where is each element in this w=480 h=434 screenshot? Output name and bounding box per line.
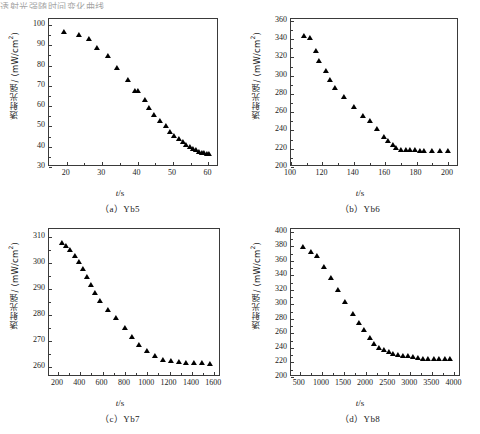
x-tick	[454, 372, 455, 375]
y-tick-label: 240	[257, 343, 287, 351]
y-tick-minor	[49, 276, 51, 277]
y-tick-label: 70	[15, 81, 45, 89]
data-point	[122, 325, 128, 330]
x-tick	[291, 162, 292, 165]
x-tick	[80, 372, 81, 375]
data-point	[328, 275, 334, 280]
y-tick-minor	[291, 30, 293, 31]
data-point	[125, 77, 131, 82]
x-tick-label: 4000	[436, 379, 470, 387]
y-tick-label: 30	[15, 162, 45, 170]
data-point	[97, 298, 103, 303]
x-axis-title-c: t/s	[0, 398, 240, 408]
y-tick	[49, 86, 52, 87]
chart-panel-b: 透射光强/ (mW/cm2) t/s （b）Yb6 20022024026028…	[240, 8, 480, 221]
data-point	[151, 112, 157, 117]
x-tick-minor	[401, 163, 402, 165]
y-tick-label: 50	[15, 121, 45, 129]
y-tick-label: 220	[257, 357, 287, 365]
x-tick-minor	[333, 373, 334, 375]
data-point	[114, 65, 120, 70]
x-tick	[192, 372, 193, 375]
chart-caption-d: （d）Yb8	[240, 412, 480, 425]
x-tick-label: 160	[367, 169, 401, 177]
y-tick-label: 260	[15, 362, 45, 370]
x-tick	[388, 372, 389, 375]
data-point	[157, 118, 163, 123]
plot-area-b	[290, 18, 458, 166]
y-tick-label: 340	[257, 270, 287, 278]
chart-caption-a: （a）Yb5	[0, 202, 240, 215]
y-tick-minor	[291, 85, 293, 86]
x-tick	[170, 372, 171, 375]
x-tick	[138, 162, 139, 165]
data-point	[335, 287, 341, 292]
y-tick-minor	[49, 354, 51, 355]
data-point	[92, 290, 98, 295]
figure-sheet: 透射光强随时间变化曲线 透射光强/ (mW/cm2) t/s （a）Yb5 30…	[0, 0, 480, 434]
y-tick-label: 90	[15, 40, 45, 48]
y-tick	[291, 362, 294, 363]
x-tick-minor	[377, 373, 378, 375]
data-point	[447, 355, 453, 360]
data-point	[160, 357, 166, 362]
x-tick-label: 60	[190, 169, 224, 177]
y-tick	[49, 237, 52, 238]
x-tick-minor	[443, 373, 444, 375]
x-tick-label: 50	[155, 169, 189, 177]
data-point	[105, 307, 111, 312]
y-tick	[49, 341, 52, 342]
plot-area-d	[290, 228, 460, 376]
data-point	[342, 299, 348, 304]
x-tick-minor	[338, 163, 339, 165]
y-tick	[291, 94, 294, 95]
y-tick	[291, 149, 294, 150]
data-point	[366, 335, 372, 340]
y-tick-minor	[291, 355, 293, 356]
data-point	[429, 148, 435, 153]
data-point	[183, 360, 189, 365]
data-point	[332, 85, 338, 90]
y-tick-minor	[291, 254, 293, 255]
data-points-b	[291, 19, 457, 165]
y-tick	[291, 304, 294, 305]
y-tick-minor	[291, 158, 293, 159]
y-tick-label: 380	[257, 241, 287, 249]
x-tick-minor	[307, 163, 308, 165]
y-tick-label: 280	[257, 89, 287, 97]
data-point	[86, 36, 92, 41]
y-tick-minor	[49, 328, 51, 329]
y-tick-minor	[291, 140, 293, 141]
data-point	[321, 264, 327, 269]
x-tick-minor	[155, 163, 156, 165]
y-tick-label: 320	[257, 52, 287, 60]
x-tick-minor	[370, 163, 371, 165]
x-tick	[300, 372, 301, 375]
x-tick-minor	[84, 163, 85, 165]
y-tick	[291, 130, 294, 131]
x-tick	[102, 162, 103, 165]
y-tick-label: 320	[257, 285, 287, 293]
x-tick-minor	[203, 373, 204, 375]
data-point	[61, 29, 67, 34]
x-tick	[58, 372, 59, 375]
y-tick-minor	[49, 55, 51, 56]
x-tick	[366, 372, 367, 375]
y-tick	[49, 367, 52, 368]
x-tick-label: 180	[399, 169, 433, 177]
data-point	[105, 53, 111, 58]
y-tick-minor	[291, 283, 293, 284]
x-tick	[322, 372, 323, 375]
y-tick	[49, 45, 52, 46]
data-point	[300, 244, 306, 249]
data-point	[421, 148, 427, 153]
data-point	[175, 359, 181, 364]
x-tick-label: 20	[49, 169, 83, 177]
x-axis-title-a: t/s	[0, 188, 240, 198]
y-tick	[49, 126, 52, 127]
x-tick	[125, 372, 126, 375]
y-tick	[291, 246, 294, 247]
x-tick-label: 120	[304, 169, 338, 177]
y-tick-label: 280	[15, 310, 45, 318]
y-tick-minor	[49, 96, 51, 97]
